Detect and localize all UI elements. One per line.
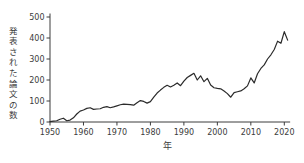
y-axis-title-char: 表 [9, 36, 18, 46]
y-axis-title-char: 数 [9, 110, 18, 120]
y-tick-label: 400 [29, 34, 44, 43]
y-tick-label: 100 [29, 97, 44, 106]
y-tick-label: 500 [29, 13, 44, 22]
x-tick-label: 1970 [107, 128, 127, 137]
y-axis-title-char: 論 [9, 79, 18, 89]
x-tick-label: 2000 [207, 128, 227, 137]
y-tick-label: 0 [39, 118, 44, 127]
x-tick-label: 2010 [241, 128, 261, 137]
y-tick-label: 200 [29, 76, 44, 85]
y-tick-label: 300 [29, 55, 44, 64]
y-axis-title-char: 文 [9, 89, 18, 99]
x-tick-label: 1950 [40, 128, 60, 137]
papers-per-year-chart: 0100200300400500195019601970198019902000… [0, 0, 304, 163]
y-axis-title-char: れ [9, 57, 18, 67]
x-axis-title: 年 [163, 140, 172, 151]
x-tick-label: 1980 [140, 128, 160, 137]
chart-svg: 0100200300400500195019601970198019902000… [0, 0, 304, 163]
y-axis-title-char: 発 [9, 26, 18, 36]
y-axis-title-char: さ [9, 47, 18, 57]
papers-line-series [50, 32, 288, 122]
x-tick-label: 1990 [174, 128, 194, 137]
x-tick-label: 1960 [73, 128, 93, 137]
y-axis-title-char: た [9, 68, 18, 78]
y-axis-title-char: の [9, 100, 18, 110]
x-tick-label: 2020 [274, 128, 294, 137]
